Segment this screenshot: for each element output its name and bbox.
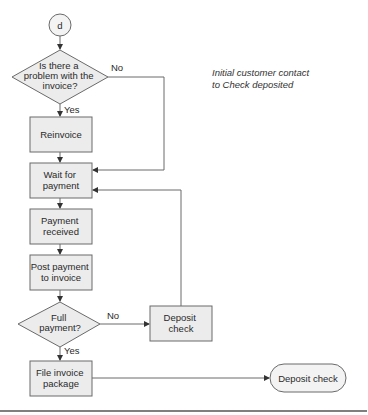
terminal-label: Deposit check	[278, 373, 338, 384]
annotation-line1: Initial customer contact	[212, 67, 310, 78]
decision-problem-line3: invoice?	[43, 80, 78, 91]
process-post-payment: Post payment to invoice	[30, 255, 92, 290]
wait-line2: payment	[43, 180, 80, 191]
connector-d: d	[49, 14, 71, 36]
full-yes-label: Yes	[64, 345, 80, 356]
svg-text:Wait for payment: Wait for payment	[43, 169, 80, 191]
annotation-line2: to Check deposited	[212, 79, 294, 90]
wait-line1: Wait for	[43, 169, 75, 180]
svg-text:Deposit check: Deposit check	[164, 312, 199, 334]
svg-text:Payment received: Payment received	[41, 215, 81, 237]
process-deposit-check: Deposit check	[150, 306, 212, 341]
full-line2: payment?	[39, 322, 81, 333]
post-line1: Post payment	[31, 261, 89, 272]
svg-text:File invoice package: File invoice package	[36, 367, 86, 389]
connector-label: d	[57, 20, 62, 31]
process-file-invoice-package: File invoice package	[30, 361, 92, 396]
terminal-deposit-check: Deposit check	[270, 364, 346, 392]
full-no-label: No	[107, 310, 119, 321]
process-wait-for-payment: Wait for payment	[30, 163, 92, 198]
annotation: Initial customer contact to Check deposi…	[212, 67, 312, 90]
deposit-box-line1: Deposit	[164, 312, 197, 323]
process-payment-received: Payment received	[30, 209, 92, 244]
edge-deposit-to-wait	[93, 190, 181, 306]
problem-no-label: No	[111, 62, 123, 73]
decision-full-payment: Full payment?	[18, 302, 100, 347]
received-line1: Payment	[41, 215, 79, 226]
edge-problem-no	[93, 77, 164, 170]
received-line2: received	[43, 226, 79, 237]
process-reinvoice: Reinvoice	[30, 117, 92, 152]
reinvoice-label: Reinvoice	[40, 129, 82, 140]
post-line2: to invoice	[41, 272, 81, 283]
flowchart: d Is there a problem with the invoice? N…	[0, 0, 368, 415]
decision-problem-with-invoice: Is there a problem with the invoice?	[12, 50, 108, 104]
problem-yes-label: Yes	[64, 104, 80, 115]
deposit-box-line2: check	[169, 323, 194, 334]
file-line1: File invoice	[36, 367, 84, 378]
file-line2: package	[43, 378, 79, 389]
